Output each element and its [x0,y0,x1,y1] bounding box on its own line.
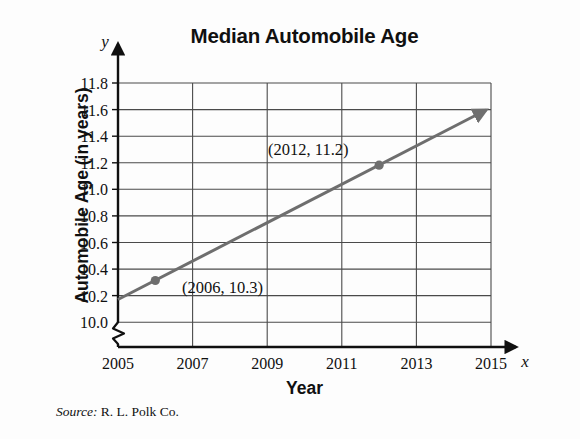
x-tick-label: 2009 [251,355,283,372]
y-tick-label: 11.4 [81,128,108,145]
plot-area: 11.8 11.6 11.4 11.2 11.0 10.8 10.6 10.4 … [0,0,580,439]
grid-vertical [193,83,491,347]
x-tick-label: 2005 [102,355,134,372]
y-tick-label: 11.2 [81,155,108,172]
y-tick-labels: 11.8 11.6 11.4 11.2 11.0 10.8 10.6 10.4 … [80,75,108,331]
y-tick-label: 10.0 [80,314,108,331]
y-tick-label: 10.2 [80,288,108,305]
x-tick-labels: 2005 2007 2009 2011 2013 2015 [102,355,507,372]
y-tick-label: 11.8 [81,75,108,92]
data-point-label: (2012, 11.2) [268,140,349,159]
x-tick-label: 2007 [177,355,209,372]
y-tick-label: 11.6 [81,102,108,119]
data-point-label: (2006, 10.3) [182,278,263,297]
chart-figure: Median Automobile Age Automobile Age (in… [0,0,580,439]
x-axis-letter: x [520,352,529,371]
data-point-marker [375,161,384,170]
y-tick-label: 11.0 [81,181,108,198]
y-axis-letter: y [99,32,109,51]
y-tick-label: 10.6 [80,235,108,252]
y-tick-label: 10.4 [80,261,108,278]
y-axis [113,44,124,347]
x-tick-label: 2011 [326,355,357,372]
data-series-line [118,110,486,300]
y-tick-label: 10.8 [80,208,108,225]
data-point-marker [151,276,160,285]
x-tick-label: 2013 [400,355,432,372]
x-tick-label: 2015 [475,355,507,372]
axis-break-icon [113,322,124,344]
